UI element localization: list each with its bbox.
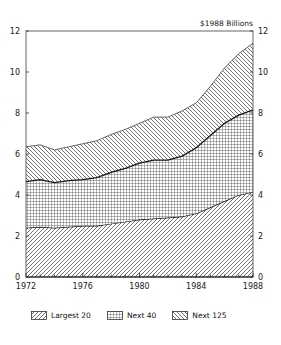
y-tick-label-right: 12 [258, 27, 268, 36]
y-tick-label-right: 0 [258, 273, 263, 282]
y-tick-label-left: 8 [15, 109, 20, 118]
y-tick-label-left: 12 [10, 27, 20, 36]
legend-item-next-125: Next 125 [172, 311, 226, 320]
y-tick-label-right: 2 [258, 232, 263, 241]
y-tick-label-left: 4 [15, 191, 20, 200]
plot-areas [26, 43, 253, 277]
x-tick-label: 1988 [243, 282, 263, 291]
legend-item-largest-20: Largest 20 [31, 311, 91, 320]
legend-item-next-40: Next 40 [107, 311, 156, 320]
y-tick-label-left: 6 [15, 150, 20, 159]
y-tick-label-left: 10 [10, 68, 20, 77]
legend-label: Next 40 [127, 311, 156, 320]
y-tick-label-left: 2 [15, 232, 20, 241]
legend-label: Largest 20 [51, 311, 91, 320]
y-tick-label-right: 10 [258, 68, 268, 77]
x-tick-label: 1980 [129, 282, 149, 291]
legend-label: Next 125 [192, 311, 226, 320]
legend: Largest 20 Next 40 Next 125 [31, 311, 242, 320]
y-tick-label-left: 0 [15, 273, 20, 282]
hatch-forward-swatch-icon [31, 311, 47, 320]
x-tick-label: 1972 [16, 282, 36, 291]
x-tick-label: 1976 [73, 282, 93, 291]
y-tick-label-right: 6 [258, 150, 263, 159]
stacked-area-chart: 00224466881010121219721976198019841988 $… [0, 0, 281, 345]
y-tick-label-right: 8 [258, 109, 263, 118]
hatch-backward-swatch-icon [172, 311, 188, 320]
unit-label: $1988 Billions [200, 19, 253, 28]
hatch-grid-swatch-icon [107, 311, 123, 320]
y-tick-label-right: 4 [258, 191, 263, 200]
x-tick-label: 1984 [186, 282, 206, 291]
